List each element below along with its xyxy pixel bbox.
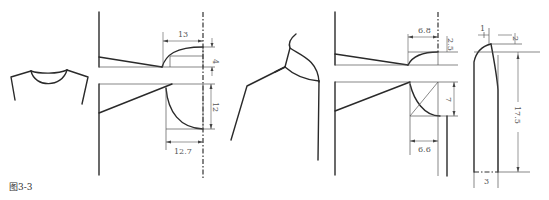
pattern-diagram: 13 4 12 12.7 [0, 0, 549, 200]
dim-label-12-7: 12.7 [174, 147, 192, 156]
side-collar-sketch [231, 34, 319, 160]
round-neck-pattern: 13 4 12 12.7 [99, 12, 220, 178]
dim-label-4: 4 [211, 59, 220, 64]
collar-pattern: 6.8 2.5 7 6.6 [335, 12, 458, 176]
dim-label-7: 7 [444, 97, 453, 102]
dim-label-17-5: 17.5 [513, 106, 522, 124]
dim-label-1: 1 [480, 24, 485, 33]
dim-label-2: 2 [511, 36, 520, 41]
front-neck-sketch [11, 70, 88, 104]
dim-label-3: 3 [484, 177, 489, 186]
dim-label-6-6: 6.6 [418, 145, 431, 154]
figure-caption: 图3-3 [9, 180, 33, 193]
dim-label-12: 12 [211, 102, 220, 112]
dim-label-6-8: 6.8 [418, 26, 431, 35]
dim-label-2-5: 2.5 [446, 38, 455, 51]
dim-label-13: 13 [178, 30, 188, 39]
collar-piece: 1 2 17.5 3 [474, 24, 540, 188]
